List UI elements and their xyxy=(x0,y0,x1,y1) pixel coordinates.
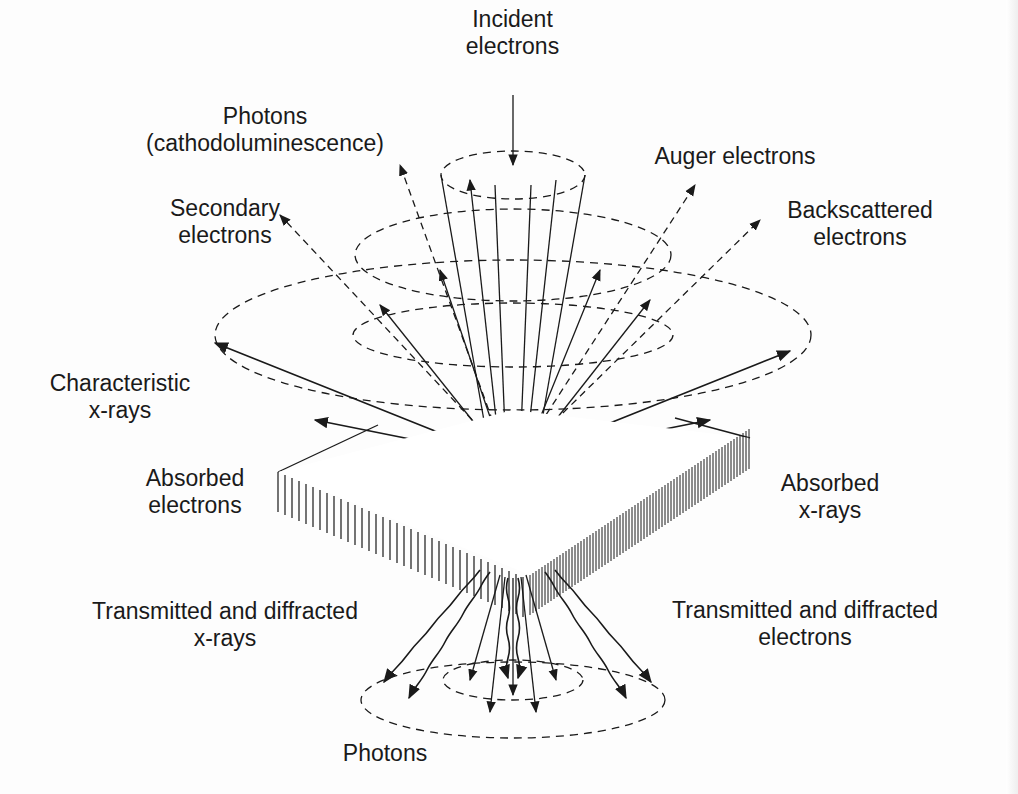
label-line: Photons xyxy=(100,103,430,130)
label-line: electrons xyxy=(630,624,980,651)
label-line: Incident xyxy=(445,6,580,33)
label-line: (cathodoluminescence) xyxy=(100,130,430,157)
label-line: x-rays xyxy=(20,397,220,424)
label-line: Backscattered xyxy=(760,197,960,224)
label-absorbed-xrays: Absorbed x-rays xyxy=(755,470,905,524)
label-line: Secondary xyxy=(140,195,310,222)
page-edge xyxy=(1006,0,1018,794)
label-backscattered-electrons: Backscattered electrons xyxy=(760,197,960,251)
label-line: x-rays xyxy=(50,625,400,652)
label-line: Auger electrons xyxy=(620,143,850,170)
label-line: Absorbed xyxy=(755,470,905,497)
label-line: electrons xyxy=(125,492,265,519)
outer-cone-ellipse xyxy=(215,260,811,410)
label-line: electrons xyxy=(140,222,310,249)
label-transmitted-electrons: Transmitted and diffracted electrons xyxy=(630,597,980,651)
label-line: electrons xyxy=(445,33,580,60)
label-characteristic-xrays: Characteristic x-rays xyxy=(20,370,220,424)
label-absorbed-electrons: Absorbed electrons xyxy=(125,465,265,519)
label-photons-bottom: Photons xyxy=(320,740,450,767)
label-line: Photons xyxy=(320,740,450,767)
label-line: Absorbed xyxy=(125,465,265,492)
label-line: x-rays xyxy=(755,497,905,524)
label-line: electrons xyxy=(760,224,960,251)
label-line: Characteristic xyxy=(20,370,220,397)
label-line: Transmitted and diffracted xyxy=(630,597,980,624)
diagram-canvas: Incident electrons Photons (cathodolumin… xyxy=(0,0,1018,794)
label-auger-electrons: Auger electrons xyxy=(620,143,850,170)
label-transmitted-xrays: Transmitted and diffracted x-rays xyxy=(50,598,400,652)
label-incident-electrons: Incident electrons xyxy=(445,6,580,60)
label-line: Transmitted and diffracted xyxy=(50,598,400,625)
label-photons-cathodoluminescence: Photons (cathodoluminescence) xyxy=(100,103,430,157)
label-secondary-electrons: Secondary electrons xyxy=(140,195,310,249)
middle-cone-ellipse xyxy=(355,209,671,301)
inner-cone-ellipse xyxy=(353,303,673,367)
specimen-slab xyxy=(278,410,750,617)
